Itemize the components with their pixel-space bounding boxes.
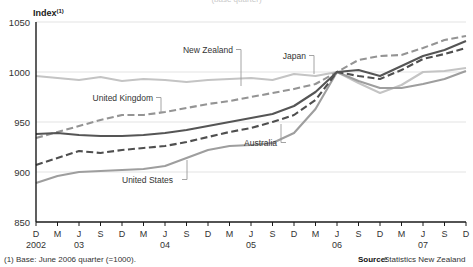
x-year-2002: 2002 [26, 240, 46, 250]
x-tick-6: J [163, 229, 168, 239]
leader-line-united-states [182, 160, 187, 180]
y-axis-title-text: Index [33, 8, 57, 18]
y-axis-title: Index(1) [33, 8, 64, 18]
chart-title-clipped: (base quarter) [0, 0, 473, 5]
x-tick-11: S [269, 229, 275, 239]
x-year-06: 06 [332, 240, 342, 250]
x-tick-19: S [441, 229, 447, 239]
x-year-03: 03 [74, 240, 84, 250]
leader-line-japan [309, 56, 314, 75]
index-line-chart: 85090095010001050 DMJSDMJSDMJSDMJSDMJSD … [0, 0, 473, 267]
x-tick-13: M [312, 229, 320, 239]
x-tick-20: D [463, 229, 470, 239]
x-tick-10: J [249, 229, 254, 239]
x-tick-1: M [54, 229, 62, 239]
x-tick-17: M [398, 229, 406, 239]
x-axis-tick-labels: DMJSDMJSDMJSDMJSDMJSD [33, 229, 470, 239]
y-axis-title-superscript: (1) [57, 8, 64, 14]
series-label-new-zealand: New Zealand [183, 45, 233, 55]
x-year-05: 05 [246, 240, 256, 250]
x-tick-2: J [77, 229, 82, 239]
x-axis-year-labels: 20020304050607 [26, 240, 428, 250]
footnote: (1) Base: June 2006 quarter (=1000). [4, 255, 136, 264]
series-label-united-kingdom: United Kingdom [93, 93, 153, 103]
y-tick-900: 900 [14, 167, 30, 178]
leader-line-new-zealand [236, 50, 241, 87]
x-year-04: 04 [160, 240, 170, 250]
x-tick-9: M [226, 229, 234, 239]
series-label-japan: Japan [283, 51, 306, 61]
series-label-united-states: United States [122, 175, 173, 185]
x-tick-18: J [421, 229, 426, 239]
y-tick-1050: 1050 [9, 17, 30, 28]
y-axis-tick-labels: 85090095010001050 [9, 17, 30, 228]
y-tick-1000: 1000 [9, 67, 30, 78]
x-tick-16: D [377, 229, 384, 239]
series-label-australia: Australia [244, 138, 277, 148]
x-tick-15: S [355, 229, 361, 239]
x-tick-14: J [335, 229, 340, 239]
series-lines [36, 36, 466, 183]
x-tick-8: D [205, 229, 212, 239]
leader-line-united-kingdom [156, 98, 161, 114]
x-year-07: 07 [418, 240, 428, 250]
x-tick-4: D [119, 229, 126, 239]
x-tick-12: D [291, 229, 298, 239]
x-tick-0: D [33, 229, 40, 239]
x-tick-3: S [97, 229, 103, 239]
series-annotations: New ZealandJapanUnited KingdomAustraliaU… [93, 45, 314, 185]
y-tick-950: 950 [14, 117, 30, 128]
chart-container: (base quarter) 85090095010001050 DMJSDMJ… [0, 0, 473, 267]
y-tick-850: 850 [14, 217, 30, 228]
x-tick-5: M [140, 229, 148, 239]
source-value: Statistics New Zealand [384, 255, 465, 264]
x-tick-7: S [183, 229, 189, 239]
series-line-united-states [36, 71, 466, 183]
